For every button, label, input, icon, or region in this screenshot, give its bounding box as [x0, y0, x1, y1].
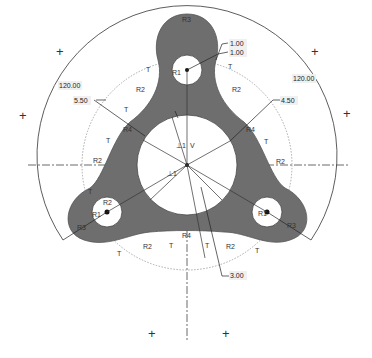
label-r3: R3 [287, 222, 296, 229]
perpendicular-constraint: ⊥1 [176, 142, 186, 149]
label-r3-top: R3 [182, 16, 191, 23]
svg-text:3.00: 3.00 [230, 272, 244, 279]
tangent-label: T [255, 247, 260, 254]
dimension-5-50[interactable]: 5.50 [73, 96, 91, 105]
tangent-label: T [117, 250, 122, 257]
dimension-angle-right[interactable]: 120.00 [292, 74, 316, 83]
svg-text:1.00: 1.00 [230, 40, 244, 47]
label-r2: R2 [93, 157, 102, 164]
label-r2: R2 [226, 243, 235, 250]
sketch-canvas[interactable]: 1.00 1.00 120.00 120.00 5.50 4.50 3.00 R… [0, 0, 372, 358]
plus-marker: + [311, 44, 319, 59]
dimension-2[interactable]: 1.00 [229, 48, 247, 57]
dimension-3-00[interactable]: 3.00 [229, 271, 247, 280]
svg-text:120.00: 120.00 [59, 82, 81, 89]
plus-marker: + [56, 44, 64, 59]
label-r4: R4 [246, 126, 255, 133]
tangent-label: T [169, 242, 174, 249]
label-r3: R3 [77, 224, 86, 231]
vertical-constraint: V [190, 142, 195, 149]
dimension-angle-left[interactable]: 120.00 [58, 81, 82, 90]
plus-marker: + [148, 326, 156, 341]
label-r1-top: R1 [172, 69, 181, 76]
perpendicular-constraint: ⊥1 [167, 170, 177, 177]
svg-text:4.50: 4.50 [281, 97, 295, 104]
plus-marker: + [343, 106, 351, 121]
label-r2: R2 [232, 86, 241, 93]
plus-marker: + [19, 108, 27, 123]
svg-text:120.00: 120.00 [293, 75, 315, 82]
tangent-label: T [264, 138, 269, 145]
tangent-label: T [228, 63, 233, 70]
dimension-1[interactable]: 1.00 [229, 39, 247, 48]
label-r2: R2 [276, 158, 285, 165]
tangent-label: T [124, 106, 129, 113]
tangent-label: T [146, 66, 151, 73]
label-r2: R2 [103, 199, 112, 206]
tangent-label: T [106, 137, 111, 144]
label-r1: R1 [92, 211, 101, 218]
tangent-label: T [205, 242, 210, 249]
svg-text:5.50: 5.50 [74, 97, 88, 104]
label-r4: R4 [123, 126, 132, 133]
label-r2: R2 [143, 243, 152, 250]
plus-marker: + [222, 326, 230, 341]
label-r4: R4 [182, 232, 191, 239]
label-r2: R2 [136, 86, 145, 93]
label-r1: R1 [258, 210, 267, 217]
svg-text:1.00: 1.00 [230, 49, 244, 56]
dimension-4-50[interactable]: 4.50 [280, 96, 298, 105]
tangent-label: T [88, 188, 93, 195]
